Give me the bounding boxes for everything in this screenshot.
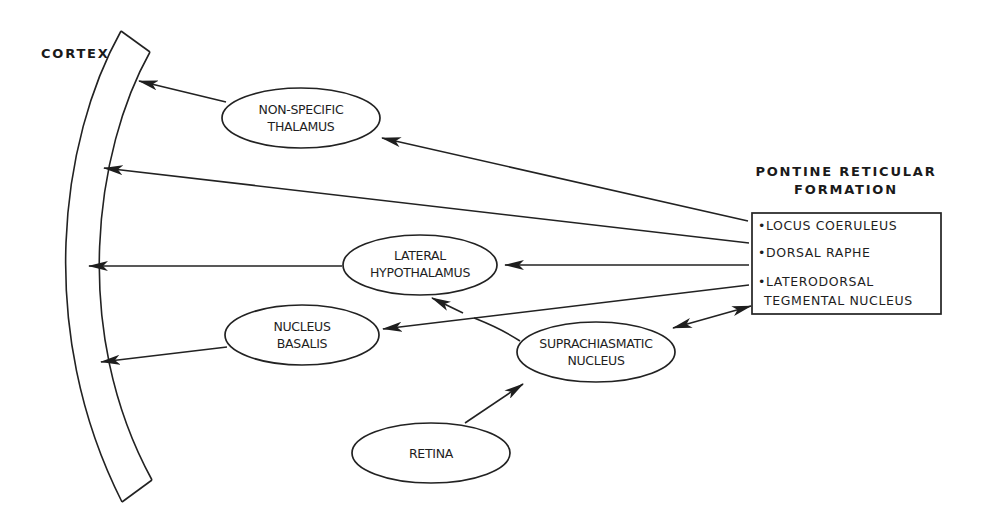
retina-label: RETINA	[409, 446, 454, 461]
edge-scn-to-hypothalamus-head	[432, 298, 463, 313]
cortex-label: CORTEX	[41, 46, 110, 61]
edge-thalamus-to-cortex	[139, 81, 226, 102]
scn-label-line1: SUPRACHIASMATIC	[539, 336, 653, 351]
edge-scn-pontine-bidirectional	[673, 306, 751, 328]
basalis-label-line2: BASALIS	[277, 336, 328, 351]
pontine-title-line2: FORMATION	[794, 182, 898, 197]
node-hypothalamus: LATERAL HYPOTHALAMUS	[343, 235, 497, 295]
edge-pontine-to-thalamus	[382, 138, 748, 221]
edge-scn-to-hypothalamus	[474, 318, 520, 341]
pontine-item-dorsal-raphe: •DORSAL RAPHE	[758, 245, 871, 260]
diagram-svg: CORTEX PONTINE RETICULAR FORMATION •LOCU…	[0, 0, 983, 517]
diagram-canvas: CORTEX PONTINE RETICULAR FORMATION •LOCU…	[0, 0, 983, 517]
edge-basalis-to-cortex	[101, 347, 227, 362]
node-scn: SUPRACHIASMATIC NUCLEUS	[517, 322, 675, 382]
hypothalamus-label-line1: LATERAL	[394, 248, 446, 263]
pontine-title-line1: PONTINE RETICULAR	[755, 164, 936, 179]
edge-pontine-to-cortex	[104, 168, 749, 243]
basalis-label-line1: NUCLEUS	[273, 319, 330, 334]
pontine-item-tegmental-nucleus: TEGMENTAL NUCLEUS	[763, 293, 913, 308]
scn-label-line2: NUCLEUS	[567, 353, 624, 368]
thalamus-label-line1: NON-SPECIFIC	[259, 102, 344, 117]
pontine-item-laterodorsal: •LATERODORSAL	[758, 274, 874, 289]
node-basalis: NUCLEUS BASALIS	[225, 305, 379, 365]
node-retina: RETINA	[352, 423, 510, 483]
node-thalamus: NON-SPECIFIC THALAMUS	[222, 88, 380, 148]
pontine-item-locus-coeruleus: •LOCUS COERULEUS	[758, 218, 897, 233]
thalamus-label-line2: THALAMUS	[267, 119, 335, 134]
hypothalamus-label-line2: HYPOTHALAMUS	[370, 265, 470, 280]
edge-retina-to-scn	[465, 384, 523, 423]
